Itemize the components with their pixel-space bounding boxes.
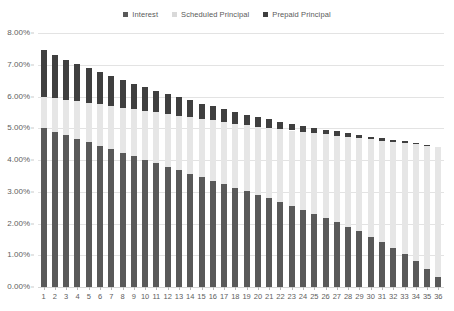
bar-segment-prepaid-principal[interactable]: [142, 87, 148, 110]
legend-entry[interactable]: Interest: [123, 10, 158, 19]
bar-segment-prepaid-principal[interactable]: [300, 126, 306, 132]
bar-segment-interest[interactable]: [108, 149, 114, 287]
bar-column[interactable]: [424, 33, 430, 287]
bar-segment-prepaid-principal[interactable]: [97, 72, 103, 104]
bar-column[interactable]: [244, 33, 250, 287]
bar-segment-scheduled-principal[interactable]: [108, 106, 114, 149]
bar-column[interactable]: [435, 33, 441, 287]
bar-segment-scheduled-principal[interactable]: [41, 97, 47, 129]
bar-segment-scheduled-principal[interactable]: [413, 144, 419, 261]
bar-segment-interest[interactable]: [131, 156, 137, 287]
bar-segment-prepaid-principal[interactable]: [120, 80, 126, 108]
bar-segment-prepaid-principal[interactable]: [74, 64, 80, 101]
bar-segment-prepaid-principal[interactable]: [210, 106, 216, 120]
bar-segment-prepaid-principal[interactable]: [368, 137, 374, 140]
bar-segment-prepaid-principal[interactable]: [63, 60, 69, 100]
bar-segment-interest[interactable]: [356, 231, 362, 287]
bar-segment-scheduled-principal[interactable]: [176, 116, 182, 171]
bar-segment-interest[interactable]: [379, 242, 385, 287]
bar-segment-scheduled-principal[interactable]: [289, 131, 295, 206]
bar-column[interactable]: [356, 33, 362, 287]
bar-segment-prepaid-principal[interactable]: [244, 115, 250, 125]
bar-column[interactable]: [86, 33, 92, 287]
bar-segment-prepaid-principal[interactable]: [41, 50, 47, 96]
bar-segment-prepaid-principal[interactable]: [266, 119, 272, 128]
bar-segment-interest[interactable]: [413, 261, 419, 287]
bar-segment-interest[interactable]: [74, 139, 80, 287]
bar-column[interactable]: [345, 33, 351, 287]
bar-segment-prepaid-principal[interactable]: [108, 76, 114, 106]
bar-column[interactable]: [390, 33, 396, 287]
bar-segment-prepaid-principal[interactable]: [187, 100, 193, 117]
bar-segment-prepaid-principal[interactable]: [86, 68, 92, 103]
bar-segment-scheduled-principal[interactable]: [97, 104, 103, 145]
bar-column[interactable]: [74, 33, 80, 287]
bar-segment-interest[interactable]: [142, 160, 148, 287]
bar-segment-prepaid-principal[interactable]: [311, 128, 317, 133]
bar-segment-interest[interactable]: [311, 214, 317, 287]
bar-column[interactable]: [120, 33, 126, 287]
bar-segment-scheduled-principal[interactable]: [379, 141, 385, 242]
bar-segment-prepaid-principal[interactable]: [379, 138, 385, 141]
bar-segment-prepaid-principal[interactable]: [52, 55, 58, 98]
bar-segment-interest[interactable]: [120, 153, 126, 287]
bar-segment-prepaid-principal[interactable]: [413, 143, 419, 144]
bar-segment-interest[interactable]: [345, 227, 351, 287]
bar-column[interactable]: [52, 33, 58, 287]
bar-segment-interest[interactable]: [368, 237, 374, 287]
bar-segment-interest[interactable]: [390, 248, 396, 287]
bar-segment-scheduled-principal[interactable]: [334, 136, 340, 223]
bar-column[interactable]: [187, 33, 193, 287]
bar-segment-scheduled-principal[interactable]: [74, 101, 80, 138]
bar-column[interactable]: [221, 33, 227, 287]
bar-segment-scheduled-principal[interactable]: [187, 117, 193, 174]
bar-segment-scheduled-principal[interactable]: [255, 127, 261, 195]
bar-segment-scheduled-principal[interactable]: [424, 146, 430, 269]
bar-segment-prepaid-principal[interactable]: [221, 109, 227, 122]
bar-segment-interest[interactable]: [210, 181, 216, 287]
bar-column[interactable]: [142, 33, 148, 287]
bar-segment-scheduled-principal[interactable]: [266, 128, 272, 198]
bar-segment-scheduled-principal[interactable]: [86, 103, 92, 142]
bar-segment-interest[interactable]: [300, 210, 306, 287]
bar-segment-interest[interactable]: [402, 254, 408, 287]
bar-segment-scheduled-principal[interactable]: [402, 143, 408, 254]
bar-column[interactable]: [210, 33, 216, 287]
bar-column[interactable]: [97, 33, 103, 287]
bar-segment-scheduled-principal[interactable]: [300, 132, 306, 210]
bar-segment-scheduled-principal[interactable]: [390, 142, 396, 248]
bar-segment-interest[interactable]: [97, 146, 103, 287]
bar-segment-interest[interactable]: [277, 202, 283, 287]
bar-segment-interest[interactable]: [153, 163, 159, 287]
bar-segment-scheduled-principal[interactable]: [63, 100, 69, 136]
bar-column[interactable]: [165, 33, 171, 287]
bar-segment-prepaid-principal[interactable]: [356, 135, 362, 138]
bar-segment-scheduled-principal[interactable]: [131, 109, 137, 156]
bar-column[interactable]: [368, 33, 374, 287]
bar-column[interactable]: [199, 33, 205, 287]
bar-segment-interest[interactable]: [52, 132, 58, 287]
bar-column[interactable]: [413, 33, 419, 287]
bar-segment-interest[interactable]: [86, 142, 92, 287]
bar-segment-prepaid-principal[interactable]: [402, 141, 408, 143]
bar-segment-interest[interactable]: [63, 135, 69, 287]
bar-segment-interest[interactable]: [266, 198, 272, 287]
bar-segment-scheduled-principal[interactable]: [232, 124, 238, 188]
bar-segment-scheduled-principal[interactable]: [52, 98, 58, 132]
bar-column[interactable]: [300, 33, 306, 287]
bar-segment-prepaid-principal[interactable]: [176, 97, 182, 115]
bar-segment-scheduled-principal[interactable]: [120, 108, 126, 153]
bar-segment-prepaid-principal[interactable]: [165, 94, 171, 114]
bar-column[interactable]: [108, 33, 114, 287]
bar-segment-prepaid-principal[interactable]: [390, 140, 396, 142]
bar-segment-prepaid-principal[interactable]: [277, 122, 283, 130]
bar-segment-scheduled-principal[interactable]: [199, 119, 205, 177]
bar-column[interactable]: [402, 33, 408, 287]
bar-segment-scheduled-principal[interactable]: [311, 133, 317, 214]
bar-column[interactable]: [323, 33, 329, 287]
bar-segment-scheduled-principal[interactable]: [244, 125, 250, 191]
bar-column[interactable]: [41, 33, 47, 287]
bar-segment-prepaid-principal[interactable]: [323, 130, 329, 135]
bar-segment-scheduled-principal[interactable]: [153, 112, 159, 163]
bar-column[interactable]: [334, 33, 340, 287]
